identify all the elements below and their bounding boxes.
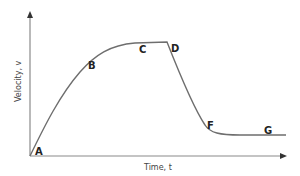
velocity-curve — [30, 42, 286, 156]
x-axis-label: Time, t — [143, 163, 172, 172]
point-label-c: C — [139, 44, 146, 55]
velocity-time-chart: A B C D F G Time, t Velocity, v — [0, 0, 300, 176]
point-label-a: A — [35, 146, 43, 157]
x-axis-arrow-icon — [280, 153, 287, 159]
point-label-f: F — [207, 120, 214, 131]
y-axis-label: Velocity, v — [14, 61, 23, 102]
point-label-b: B — [88, 60, 96, 71]
point-label-d: D — [171, 43, 179, 54]
y-axis-arrow-icon — [27, 11, 33, 18]
point-label-g: G — [264, 125, 272, 136]
